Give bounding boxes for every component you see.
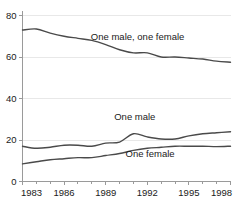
y-tick-label-0: 0 xyxy=(11,176,16,187)
y-axis-ticks: 020406080 xyxy=(6,10,23,187)
series-label-1: One male xyxy=(114,111,155,122)
x-tick-label-1989: 1989 xyxy=(95,187,116,198)
x-tick-label-1992: 1992 xyxy=(137,187,158,198)
series-group xyxy=(23,29,231,164)
chart-canvas: 020406080198319861989199219951998One mal… xyxy=(0,0,236,205)
x-tick-label-1998: 1998 xyxy=(211,187,232,198)
series-label-0: One male, one female xyxy=(91,31,184,42)
y-tick-label-20: 20 xyxy=(6,134,17,145)
y-tick-label-40: 40 xyxy=(6,93,17,104)
x-tick-label-1986: 1986 xyxy=(54,187,75,198)
y-tick-label-80: 80 xyxy=(6,10,17,21)
x-tick-label-1983: 1983 xyxy=(21,187,42,198)
x-tick-label-1995: 1995 xyxy=(178,187,199,198)
series-label-2: One female xyxy=(126,148,175,159)
y-tick-label-60: 60 xyxy=(6,51,17,62)
line-chart: 020406080198319861989199219951998One mal… xyxy=(0,0,236,205)
x-axis-ticks: 198319861989199219951998 xyxy=(21,182,232,198)
